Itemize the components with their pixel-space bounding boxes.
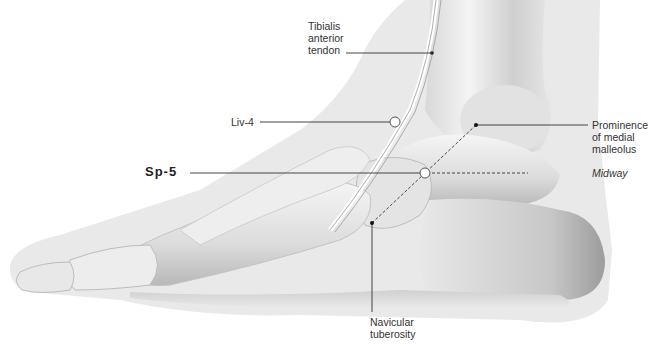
label-line: of medial	[592, 131, 648, 143]
label-line: tuberosity	[370, 328, 416, 340]
sp5-label: Sp-5	[145, 166, 177, 178]
tibialis-anterior-label: Tibialis anterior tendon	[308, 20, 344, 56]
liv4-label: Liv-4	[231, 116, 254, 128]
label-line: Tibialis	[308, 20, 344, 32]
sp5-point-marker	[420, 168, 430, 178]
foot-diagram: Tibialis anterior tendon Liv-4 Sp-5 Prom…	[0, 0, 661, 351]
midway-label: Midway	[592, 167, 628, 179]
label-line: tendon	[308, 44, 344, 56]
liv4-point-marker	[390, 117, 400, 127]
label-line: Navicular	[370, 316, 416, 328]
label-line: malleolus	[592, 143, 648, 155]
prominence-label: Prominence of medial malleolus	[592, 119, 648, 155]
label-line: anterior	[308, 32, 344, 44]
navicular-tuberosity-label: Navicular tuberosity	[370, 316, 416, 340]
label-line: Prominence	[592, 119, 648, 131]
